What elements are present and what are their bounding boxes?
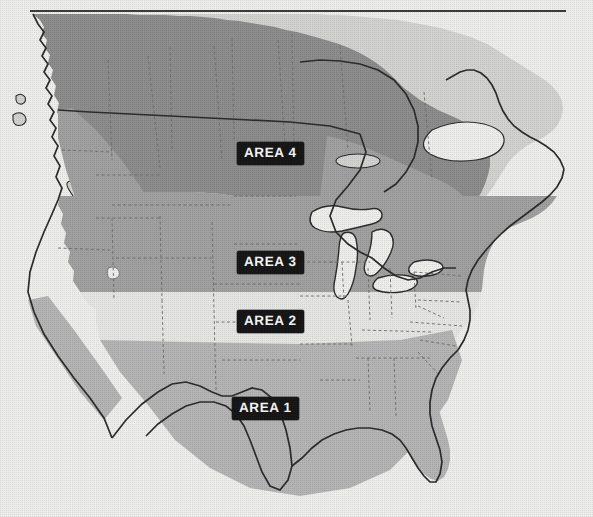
area-label-4[interactable]: AREA 4: [237, 142, 304, 165]
area-label-2[interactable]: AREA 2: [237, 310, 304, 333]
area-label-1[interactable]: AREA 1: [232, 397, 299, 420]
area-label-3[interactable]: AREA 3: [237, 251, 304, 274]
map-page: AREA 4 AREA 3 AREA 2 AREA 1: [0, 0, 593, 517]
